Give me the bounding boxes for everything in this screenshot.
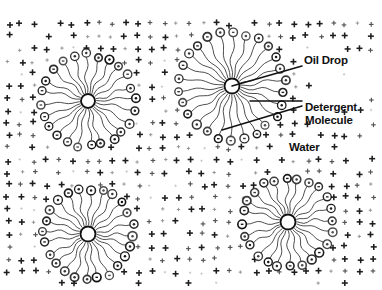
micelle-diagram	[0, 0, 382, 290]
label-oil-drop: Oil Drop	[304, 54, 348, 66]
oil-drop-core-bottom-left	[81, 227, 96, 242]
oil-drop-core-top-left	[81, 94, 95, 108]
label-detergent-molecule-line2: Molecule	[305, 114, 353, 126]
label-detergent-molecule: Detergent	[305, 101, 357, 113]
figure-canvas: Oil Drop Detergent Molecule Water	[0, 0, 382, 290]
label-water: Water	[289, 141, 320, 153]
oil-drop-core-bottom-right	[281, 215, 296, 230]
